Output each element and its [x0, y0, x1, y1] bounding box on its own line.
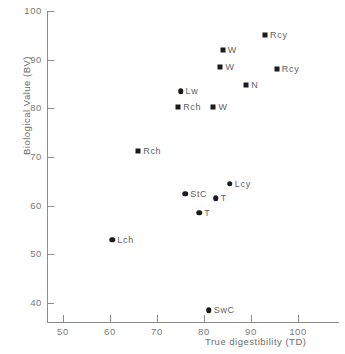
square-marker-icon — [220, 47, 225, 52]
square-marker-icon — [136, 149, 141, 154]
circle-marker-icon — [227, 181, 233, 187]
y-tick-label-50: 50 — [16, 248, 42, 259]
data-point-label: Rcy — [270, 30, 288, 40]
data-point-label: Lw — [186, 86, 199, 96]
circle-marker-icon — [182, 191, 188, 197]
y-tick-label-60: 60 — [16, 200, 42, 211]
square-marker-icon — [176, 104, 181, 109]
square-marker-icon — [263, 33, 268, 38]
y-tick-70 — [47, 157, 54, 158]
x-axis-line — [47, 322, 339, 323]
y-axis-line — [47, 11, 48, 323]
x-tick-90 — [251, 315, 252, 323]
circle-marker-icon — [110, 237, 116, 243]
x-tick-50 — [63, 315, 64, 323]
x-tick-label-60: 60 — [95, 326, 125, 337]
square-marker-icon — [274, 67, 279, 72]
y-tick-50 — [47, 254, 54, 255]
y-tick-60 — [47, 206, 54, 207]
square-marker-icon — [211, 104, 216, 109]
circle-marker-icon — [213, 196, 219, 202]
data-point-label: T — [204, 208, 210, 218]
data-point-label: Rcy — [282, 64, 300, 74]
scatter-plot-figure: 405060708090100 5060708090100 Biological… — [0, 0, 345, 354]
x-tick-80 — [204, 315, 205, 323]
y-tick-40 — [47, 303, 54, 304]
x-tick-60 — [110, 315, 111, 323]
y-tick-100 — [47, 11, 54, 12]
y-axis-title: Biological Value (BV) — [21, 31, 32, 181]
x-tick-label-70: 70 — [142, 326, 172, 337]
data-point-label: SwC — [214, 305, 235, 315]
data-point-label: Rch — [183, 102, 201, 112]
x-tick-70 — [157, 315, 158, 323]
data-point-label: StC — [190, 189, 207, 199]
circle-marker-icon — [178, 89, 184, 95]
y-tick-label-40: 40 — [16, 297, 42, 308]
circle-marker-icon — [206, 308, 212, 314]
data-point-label: T — [221, 193, 227, 203]
y-tick-90 — [47, 60, 54, 61]
data-point-label: N — [251, 80, 258, 90]
data-point-label: W — [218, 102, 227, 112]
data-point-label: Lcy — [235, 179, 251, 189]
data-point-label: Lch — [117, 235, 134, 245]
circle-marker-icon — [197, 210, 203, 216]
x-tick-label-50: 50 — [48, 326, 78, 337]
x-axis-title: True digestibility (TD) — [205, 336, 306, 347]
y-tick-label-100: 100 — [16, 5, 42, 16]
data-point-label: W — [225, 62, 234, 72]
square-marker-icon — [218, 64, 223, 69]
y-tick-80 — [47, 108, 54, 109]
x-tick-100 — [298, 315, 299, 323]
square-marker-icon — [244, 83, 249, 88]
data-point-label: W — [228, 45, 237, 55]
data-point-label: Rch — [143, 146, 161, 156]
